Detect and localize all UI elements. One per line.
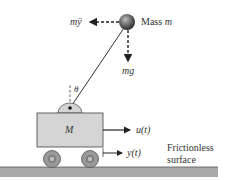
position-label: y(t)	[127, 148, 141, 158]
wheel-right	[82, 151, 99, 168]
pendulum-cart-diagram	[0, 0, 230, 180]
ground-surface	[0, 167, 218, 177]
angle-label: θ	[74, 85, 78, 94]
mass-variable: m	[165, 16, 172, 27]
inertial-force-label: mÿ	[70, 17, 82, 27]
pivot-point	[68, 106, 72, 110]
mass-ball	[119, 14, 135, 30]
surface-label-line2: surface	[167, 155, 196, 165]
mass-label-text: Mass	[141, 16, 165, 27]
mass-label: Mass m	[141, 17, 172, 27]
gravity-label: mg	[122, 66, 134, 76]
wheel-left	[44, 151, 61, 168]
input-label: u(t)	[136, 125, 150, 135]
surface-label-line1: Frictionless	[167, 143, 214, 153]
cart-mass-label: M	[65, 125, 73, 135]
pendulum-rod	[70, 28, 124, 108]
